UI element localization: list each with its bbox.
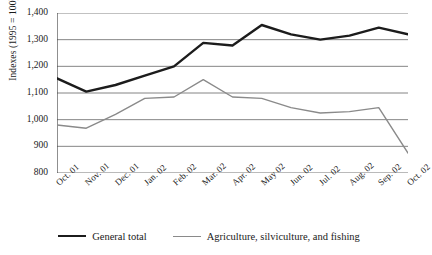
series-line [57,80,408,153]
y-axis-tick: 900 [14,142,48,152]
legend-swatch-line-icon [58,235,86,237]
plot-svg [57,13,408,173]
x-axis-tick: Oct. 02 [405,162,432,188]
legend-label: General total [92,231,147,242]
y-axis-tick: 1,200 [14,62,48,72]
y-axis-tick: 1,100 [14,88,48,98]
y-axis-tick-labels: 1,4001,3001,2001,1001,000900800 [12,0,48,255]
y-axis-tick: 1,400 [14,8,48,18]
chart-legend: General total Agriculture, silviculture,… [0,228,418,244]
legend-label: Agriculture, silviculture, and fishing [207,231,360,242]
y-axis-tick: 1,000 [14,115,48,125]
legend-item-general-total: General total [58,231,147,242]
y-axis-tick: 800 [14,168,48,178]
plot-area [57,13,408,173]
legend-item-agriculture: Agriculture, silviculture, and fishing [173,231,360,242]
legend-swatch-line-icon [173,236,201,237]
series-line [57,25,408,92]
y-axis-tick: 1,300 [14,35,48,45]
source-note [2,246,302,255]
x-axis-tick-labels: Oct. 01Nov. 01Dec. 01Jan. 02Feb. 02Mar. … [57,178,408,224]
